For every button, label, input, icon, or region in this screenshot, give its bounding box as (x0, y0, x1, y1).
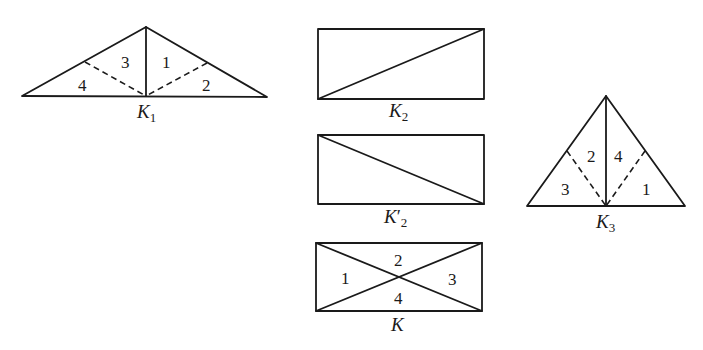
k3-dashed-right (606, 151, 645, 206)
k-region-2: 2 (394, 251, 403, 270)
k1-region-4: 4 (78, 76, 87, 95)
k3-region-2: 2 (587, 147, 596, 166)
k3-region-3: 3 (561, 180, 570, 199)
k-region-1: 1 (341, 269, 350, 288)
shape-k2-prime: K′2 (318, 135, 484, 230)
k2-prime-diagonal (318, 135, 484, 204)
k-region-4: 4 (394, 289, 403, 308)
k1-outline (22, 27, 267, 97)
k2-prime-label: K′2 (383, 206, 407, 230)
k1-region-2: 2 (202, 76, 211, 95)
shape-k1: 3 1 4 2 K1 (22, 27, 267, 125)
k3-region-1: 1 (642, 180, 651, 199)
k2-label: K2 (388, 100, 408, 124)
k3-label: K3 (595, 211, 615, 235)
k-region-3: 3 (448, 270, 457, 289)
k1-region-3: 3 (121, 53, 130, 72)
shape-k: 1 2 3 4 K (316, 243, 482, 335)
shape-k3: 2 4 3 1 K3 (527, 96, 685, 235)
k1-label: K1 (136, 101, 156, 125)
k1-dashed-right (146, 63, 207, 96)
k-label: K (390, 314, 405, 335)
k2-diagonal (318, 29, 484, 99)
k3-region-4: 4 (614, 147, 623, 166)
k1-dashed-left (85, 62, 146, 96)
shape-k2: K2 (318, 29, 484, 124)
k1-region-1: 1 (162, 53, 171, 72)
polygon-dissection-diagram: 3 1 4 2 K1 K2 K′2 1 2 3 4 K 2 4 3 1 (0, 0, 703, 350)
